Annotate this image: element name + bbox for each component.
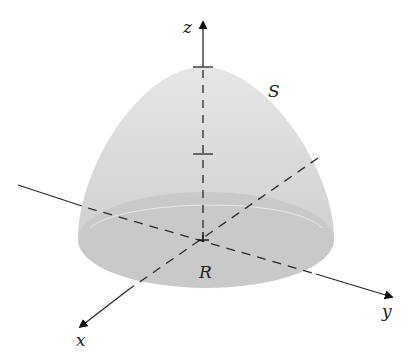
z-axis-label: z (182, 17, 193, 37)
surface-label: S (268, 81, 280, 101)
x-axis (80, 290, 128, 327)
y-axis-negative (18, 185, 88, 208)
paraboloid-diagram: z S R x y (0, 0, 419, 356)
x-axis-label: x (76, 330, 86, 350)
region-label: R (198, 262, 212, 282)
y-axis (316, 274, 392, 297)
y-axis-label: y (381, 301, 392, 321)
